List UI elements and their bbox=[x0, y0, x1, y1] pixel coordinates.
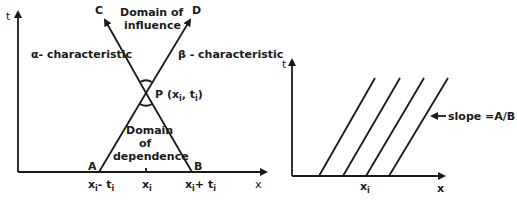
right-t-axis-label: t bbox=[282, 58, 287, 71]
x-axis-label: x bbox=[255, 178, 262, 191]
left-diagram: t x C D A B Domain of influence α- chara… bbox=[6, 4, 283, 193]
domain-influence-line1: Domain of bbox=[120, 6, 184, 19]
upper-angle-arc bbox=[140, 80, 152, 82]
right-x-axis-label: x bbox=[437, 182, 444, 195]
slope-label: slope =A/B bbox=[448, 110, 515, 123]
characteristic-line-4 bbox=[389, 78, 448, 176]
t-axis-label: t bbox=[6, 10, 11, 23]
beta-characteristic-label: β - characteristic bbox=[178, 48, 283, 61]
domain-influence-line2: influence bbox=[124, 19, 181, 32]
domain-dependence-line2: of bbox=[139, 137, 152, 150]
characteristic-line-2 bbox=[343, 78, 400, 176]
domain-dependence-line1: Domain bbox=[126, 124, 173, 137]
characteristics-diagram: t x C D A B Domain of influence α- chara… bbox=[0, 0, 517, 200]
point-b-label: B bbox=[194, 160, 202, 173]
right-tick-label-xi: xi bbox=[360, 180, 370, 195]
right-diagram: t x slope =A/B xi bbox=[282, 58, 515, 195]
point-c-label: C bbox=[95, 4, 103, 17]
point-d-label: D bbox=[192, 4, 201, 17]
tick-label-xi-plus-ti: xi+ ti bbox=[185, 178, 216, 193]
point-p-label: P (xi, ti) bbox=[155, 88, 203, 103]
domain-dependence-line3: dependence bbox=[113, 150, 189, 163]
alpha-characteristic-label: α- characteristic bbox=[31, 48, 132, 61]
characteristic-line-1 bbox=[319, 78, 375, 176]
characteristic-line-3 bbox=[366, 78, 424, 176]
tick-label-xi-minus-ti: xi- ti bbox=[88, 178, 115, 193]
lower-angle-arc bbox=[140, 104, 152, 106]
point-a-label: A bbox=[88, 160, 97, 173]
tick-label-xi: xi bbox=[142, 178, 152, 193]
